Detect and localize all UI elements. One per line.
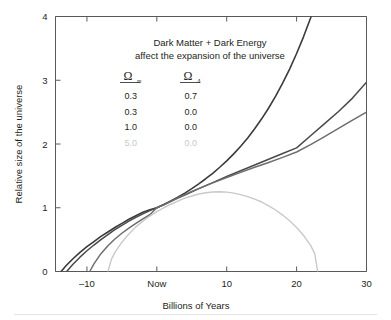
omega-lambda-subscript: Λ bbox=[196, 78, 201, 84]
y-tick-label-2: 2 bbox=[42, 139, 47, 150]
x-axis-title: Billions of Years bbox=[162, 300, 229, 311]
legend-omega-lambda-value: 0.0 bbox=[184, 122, 197, 132]
legend-omega-lambda-value: 0.0 bbox=[184, 138, 197, 148]
y-axis-title: Relative size of the universe bbox=[13, 85, 24, 204]
x-tick-label-2: 10 bbox=[221, 278, 232, 289]
y-tick-label-4: 4 bbox=[42, 11, 47, 22]
x-tick-label-1: Now bbox=[147, 278, 166, 289]
legend-omega-m-value: 5.0 bbox=[124, 138, 137, 148]
legend-omega-m-value: 1.0 bbox=[124, 122, 137, 132]
chart-title-line-2: affect the expansion of the universe bbox=[135, 50, 285, 61]
chart-title-line-1: Dark Matter + Dark Energy bbox=[153, 37, 266, 48]
legend-omega-m-value: 0.3 bbox=[124, 107, 137, 117]
legend-omega-lambda-value: 0.0 bbox=[184, 107, 197, 117]
y-tick-label-0: 0 bbox=[42, 266, 47, 277]
expansion-of-universe-chart: –10Now102030 01234 Dark Matter + Dark En… bbox=[0, 0, 391, 320]
omega-m-symbol: Ω bbox=[124, 69, 133, 83]
x-tick-label-3: 20 bbox=[291, 278, 302, 289]
omega-m-subscript: m bbox=[137, 78, 142, 84]
figure-container: –10Now102030 01234 Dark Matter + Dark En… bbox=[0, 0, 391, 320]
y-tick-label-3: 3 bbox=[42, 75, 47, 86]
omega-lambda-symbol: Ω bbox=[184, 69, 193, 83]
legend-omega-m-value: 0.3 bbox=[124, 91, 137, 101]
y-tick-label-1: 1 bbox=[42, 202, 47, 213]
x-tick-label-4: 30 bbox=[361, 278, 372, 289]
x-tick-label-0: –10 bbox=[79, 278, 95, 289]
legend-omega-lambda-value: 0.7 bbox=[184, 91, 197, 101]
